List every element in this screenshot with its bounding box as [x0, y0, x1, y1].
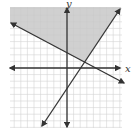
shaded-solution-region	[10, 7, 121, 62]
inequality-graph: x y	[0, 0, 132, 135]
x-axis-label: x	[125, 63, 131, 74]
y-axis-label: y	[65, 0, 72, 9]
